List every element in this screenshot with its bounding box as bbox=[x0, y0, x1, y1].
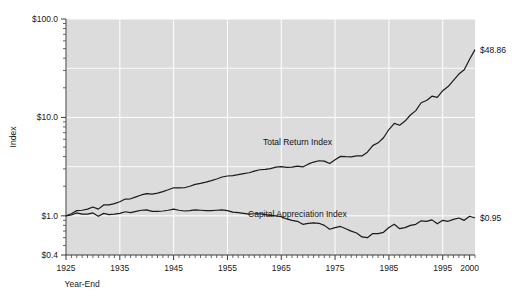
x-tick-label: 1995 bbox=[433, 263, 452, 273]
index-growth-line-chart: $100.0$10.0$1.0$0.4 19251935194519551965… bbox=[0, 0, 529, 306]
endpoint-label-capital-appreciation: $0.95 bbox=[480, 213, 502, 223]
y-tick-label: $100.0 bbox=[32, 14, 58, 24]
y-tick-label: $0.4 bbox=[41, 250, 58, 260]
x-tick-label: 1925 bbox=[57, 263, 76, 273]
annotation-capital-appreciation-index: Capital Appreciation Index bbox=[248, 209, 348, 219]
x-tick-label: 1985 bbox=[379, 263, 398, 273]
endpoint-label-total-return: $48.86 bbox=[480, 45, 506, 55]
x-tick-label: 1935 bbox=[110, 263, 129, 273]
x-tick-label: 1955 bbox=[218, 263, 237, 273]
x-axis-title: Year-End bbox=[65, 279, 100, 289]
x-tick-label: 1965 bbox=[272, 263, 291, 273]
y-tick-label: $10.0 bbox=[37, 112, 59, 122]
y-tick-label: $1.0 bbox=[41, 211, 58, 221]
x-tick-label: 1975 bbox=[326, 263, 345, 273]
x-tick-label: 1945 bbox=[164, 263, 183, 273]
chart-container: $100.0$10.0$1.0$0.4 19251935194519551965… bbox=[0, 0, 529, 306]
x-tick-label: 2000 bbox=[460, 263, 479, 273]
annotation-total-return-index: Total Return Index bbox=[263, 137, 333, 147]
y-axis-title: Index bbox=[8, 126, 18, 148]
